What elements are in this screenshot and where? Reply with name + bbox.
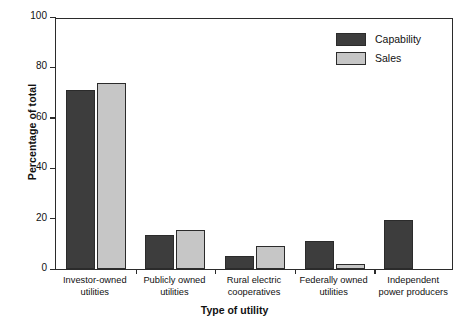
x-category-label-line: Publicly owned <box>135 275 215 287</box>
bar-capability-0 <box>66 90 95 269</box>
x-category-label: Rural electriccooperatives <box>214 275 294 298</box>
legend-entry-capability[interactable]: Capability <box>336 31 421 47</box>
legend-entry-sales[interactable]: Sales <box>336 50 421 66</box>
bar-group <box>136 19 216 269</box>
bar-chart-figure: Percentage of total 020406080100 Investo… <box>0 0 469 326</box>
legend-label: Sales <box>375 52 401 64</box>
bar-capability-1 <box>145 235 174 269</box>
y-tick-label: 100 <box>30 10 47 21</box>
x-tick-mark <box>215 269 216 274</box>
x-category-label-line: power producers <box>373 287 453 299</box>
bar-sales-3 <box>336 264 365 269</box>
y-tick-mark <box>50 17 56 18</box>
bar-group <box>56 19 136 269</box>
y-tick-label: 20 <box>36 212 47 223</box>
bar-sales-1 <box>176 230 205 269</box>
bar-sales-0 <box>97 83 126 269</box>
bar-capability-2 <box>225 256 254 269</box>
bar-sales-2 <box>256 246 285 269</box>
x-category-label-line: cooperatives <box>214 287 294 299</box>
x-category-label-line: utilities <box>55 287 135 299</box>
y-tick-label: 80 <box>36 60 47 71</box>
x-category-label: Federally ownedutilities <box>294 275 374 298</box>
x-category-label-line: Rural electric <box>214 275 294 287</box>
x-category-label-line: Federally owned <box>294 275 374 287</box>
x-category-label-line: utilities <box>294 287 374 299</box>
x-category-label: Publicly ownedutilities <box>135 275 215 298</box>
x-category-label-line: utilities <box>135 287 215 299</box>
legend-label: Capability <box>375 33 421 45</box>
legend-swatch-sales <box>336 52 366 65</box>
y-tick-label: 60 <box>36 111 47 122</box>
x-tick-mark <box>136 269 137 274</box>
x-category-label-line: Independent <box>373 275 453 287</box>
y-tick-label: 40 <box>36 161 47 172</box>
x-axis-title: Type of utility <box>0 304 469 316</box>
legend-swatch-capability <box>336 33 366 46</box>
y-tick-label: 0 <box>41 262 47 273</box>
bar-capability-3 <box>305 241 334 269</box>
x-category-label: Investor-ownedutilities <box>55 275 135 298</box>
x-tick-mark <box>295 269 296 274</box>
x-category-label: Independentpower producers <box>373 275 453 298</box>
x-tick-mark <box>374 269 375 274</box>
bar-group <box>215 19 295 269</box>
bar-capability-4 <box>384 220 413 269</box>
chart-legend: CapabilitySales <box>336 31 421 69</box>
x-category-label-line: Investor-owned <box>55 275 135 287</box>
